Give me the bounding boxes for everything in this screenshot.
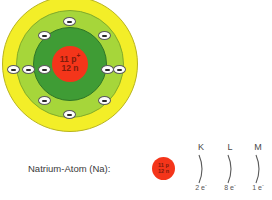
nucleus-neutron-count: 12 n: [61, 64, 78, 73]
proton-charge-sign: +: [76, 52, 80, 59]
atom-nucleus: 11 p+ 12 n: [52, 46, 88, 82]
minus-icon: [105, 69, 110, 71]
atom-caption-label: Natrium-Atom (Na):: [28, 163, 110, 174]
electron-l-1: [63, 17, 76, 26]
electron-charge-sign: -: [262, 182, 264, 188]
minus-icon: [26, 69, 31, 71]
shell-legend-letter-l: L: [215, 142, 245, 152]
electron-l-2: [98, 31, 111, 40]
shell-bracket-arc-l: [215, 154, 245, 184]
mini-nucleus-neutron-count: 12 n: [158, 169, 169, 175]
minus-icon: [11, 69, 16, 71]
mini-atom-nucleus: 11 p 12 n: [152, 157, 175, 180]
minus-icon: [67, 21, 72, 23]
electron-l-3: [22, 65, 35, 74]
minus-icon: [102, 35, 107, 37]
shell-legend-count-m: 1 e-: [243, 184, 272, 191]
electron-l-4: [113, 65, 126, 74]
shell-legend-column-l: L 8 e-: [215, 142, 245, 200]
minus-icon: [42, 100, 47, 102]
minus-icon: [67, 114, 72, 116]
electron-l-6: [38, 96, 51, 105]
shell-legend-column-k: K 2 e-: [186, 142, 216, 200]
shell-legend-letter-m: M: [243, 142, 272, 152]
minus-icon: [42, 69, 47, 71]
shell-bracket-arc-k: [186, 154, 216, 184]
bohr-atom-model: 11 p+ 12 n: [0, 0, 140, 140]
electron-l-7: [98, 96, 111, 105]
shell-legend: K 2 e- L 8 e- M 1 e-: [186, 142, 272, 200]
electron-l-5: [38, 31, 51, 40]
shell-legend-letter-k: K: [186, 142, 216, 152]
electron-m-1: [7, 65, 20, 74]
minus-icon: [117, 69, 122, 71]
minus-icon: [42, 35, 47, 37]
shell-legend-column-m: M 1 e-: [243, 142, 272, 200]
electron-charge-sign: -: [205, 182, 207, 188]
electron-charge-sign: -: [234, 182, 236, 188]
shell-bracket-arc-m: [243, 154, 272, 184]
electron-l-8: [63, 110, 76, 119]
electron-k-1: [38, 65, 51, 74]
minus-icon: [102, 100, 107, 102]
shell-legend-count-l: 8 e-: [215, 184, 245, 191]
shell-legend-count-k: 2 e-: [186, 184, 216, 191]
